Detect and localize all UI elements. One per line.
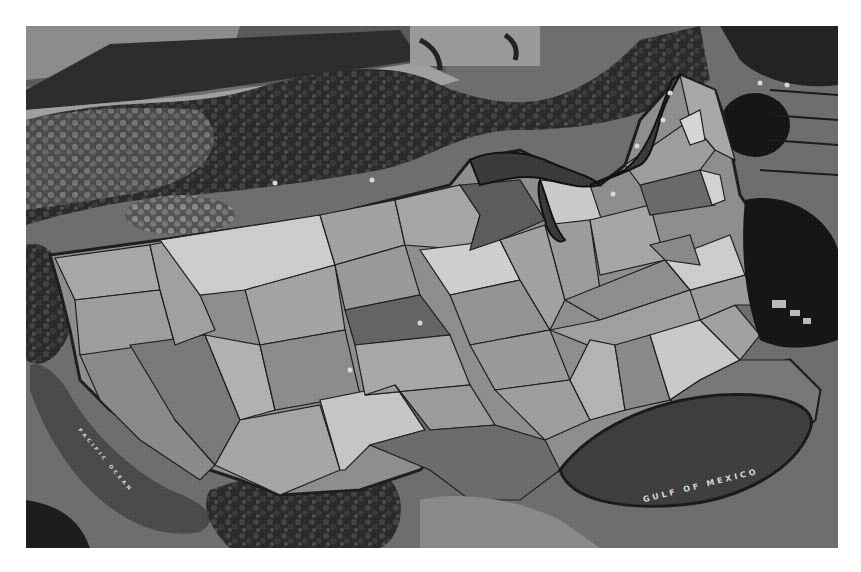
map-photograph: GULF OF MEXICO PACIFIC OCEAN [26, 26, 838, 548]
